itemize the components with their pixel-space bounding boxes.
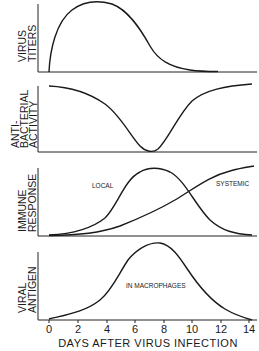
annotation-local: LOCAL xyxy=(92,182,114,189)
x-tick-0: 0 xyxy=(46,323,52,335)
y-label-line-2: RESPONSE xyxy=(26,174,38,232)
local-response-curve xyxy=(49,168,252,235)
x-tick-12: 12 xyxy=(215,323,227,335)
panel-immune-response: IMMUNE RESPONSE LOCAL SYSTEMIC xyxy=(16,166,257,236)
antibacterial-curve xyxy=(49,84,252,151)
y-label-line-3: ACTIVITY xyxy=(27,101,39,148)
figure-canvas: VIRUS TITERS ANTI- BACTERIAL ACTIVITY IM… xyxy=(0,0,259,351)
x-tick-2: 2 xyxy=(75,323,81,335)
x-tick-labels: 0 2 4 6 8 10 12 14 xyxy=(46,323,255,335)
x-tick-6: 6 xyxy=(132,323,138,335)
x-axis-label: DAYS AFTER VIRUS INFECTION xyxy=(58,337,238,349)
annotation-systemic: SYSTEMIC xyxy=(216,180,250,187)
x-tick-10: 10 xyxy=(186,323,198,335)
y-label-line-2: TITERS xyxy=(26,25,38,62)
panel-virus-titers: VIRUS TITERS xyxy=(16,2,257,72)
systemic-response-curve xyxy=(49,166,254,236)
x-tick-4: 4 xyxy=(104,323,110,335)
panel-antibacterial-activity: ANTI- BACTERIAL ACTIVITY xyxy=(9,84,257,152)
x-tick-14: 14 xyxy=(243,323,255,335)
x-tick-8: 8 xyxy=(161,323,167,335)
annotation-in-macrophages: IN MACROPHAGES xyxy=(126,282,186,289)
y-label-line-2: ANTIGEN xyxy=(26,266,38,313)
virus-titers-curve xyxy=(49,2,218,72)
panel-viral-antigen: VIRAL ANTIGEN IN MACROPHAGES 0 2 4 6 8 1… xyxy=(16,243,257,349)
